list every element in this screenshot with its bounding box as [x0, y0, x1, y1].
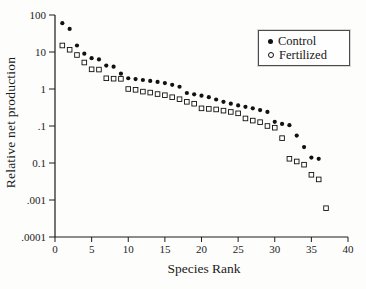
data-point-control: [236, 103, 240, 107]
data-point-control: [141, 78, 145, 82]
data-point-control: [265, 110, 269, 114]
x-tick-label: 15: [159, 243, 171, 255]
data-point-fertilized: [243, 116, 248, 121]
data-point-fertilized: [155, 92, 160, 97]
data-point-fertilized: [119, 77, 124, 82]
data-point-fertilized: [67, 47, 72, 52]
legend-item-control: Control: [268, 34, 349, 48]
data-point-control: [68, 27, 72, 31]
data-point-control: [90, 56, 94, 60]
data-point-control: [148, 79, 152, 83]
y-tick-label: 10: [35, 46, 47, 58]
data-point-fertilized: [258, 120, 263, 125]
data-point-fertilized: [316, 177, 321, 182]
data-point-control: [221, 100, 225, 104]
y-axis-ticks: 100101.10.1.001.0001: [21, 9, 55, 243]
legend-item-fertilized: Fertilized: [268, 48, 349, 62]
data-point-fertilized: [133, 88, 138, 93]
x-tick-label: 35: [306, 243, 318, 255]
y-tick-label: .001: [27, 194, 46, 206]
y-tick-label: 1: [41, 83, 47, 95]
data-point-fertilized: [97, 67, 102, 72]
data-point-control: [119, 72, 123, 76]
data-point-fertilized: [302, 162, 307, 167]
data-point-fertilized: [177, 97, 182, 102]
data-point-control: [192, 92, 196, 96]
y-tick-label: 0.1: [32, 157, 46, 169]
data-point-fertilized: [324, 206, 329, 211]
data-point-control: [302, 145, 306, 149]
y-tick-label: .0001: [21, 231, 46, 243]
data-point-fertilized: [141, 89, 146, 94]
data-point-control: [317, 157, 321, 161]
x-tick-label: 30: [269, 243, 281, 255]
x-tick-label: 40: [343, 243, 355, 255]
data-point-fertilized: [280, 136, 285, 141]
data-point-control: [104, 63, 108, 67]
open-square-icon: [268, 52, 274, 58]
data-point-fertilized: [192, 101, 197, 106]
data-point-control: [214, 97, 218, 101]
data-point-fertilized: [185, 100, 190, 105]
legend-label-control: Control: [278, 34, 316, 49]
data-point-control: [75, 43, 79, 47]
x-tick-label: 20: [196, 243, 208, 255]
data-point-control: [112, 65, 116, 69]
filled-circle-icon: [268, 39, 273, 44]
x-axis-ticks: 0510152025303540: [52, 237, 354, 255]
x-tick-label: 10: [123, 243, 135, 255]
data-point-fertilized: [309, 172, 314, 177]
data-point-control: [126, 76, 130, 80]
data-point-fertilized: [126, 87, 131, 92]
data-point-fertilized: [148, 90, 153, 95]
data-point-control: [163, 81, 167, 85]
data-point-control: [295, 134, 299, 138]
data-point-control: [229, 102, 233, 106]
data-point-control: [177, 85, 181, 89]
data-point-fertilized: [89, 67, 94, 72]
data-point-control: [258, 108, 262, 112]
data-point-control: [155, 80, 159, 84]
data-point-fertilized: [287, 156, 292, 161]
data-point-control: [287, 123, 291, 127]
data-point-fertilized: [294, 159, 299, 164]
data-point-fertilized: [207, 107, 212, 112]
data-point-control: [60, 21, 64, 25]
x-tick-label: 5: [89, 243, 95, 255]
data-point-fertilized: [229, 110, 234, 115]
data-point-fertilized: [250, 118, 255, 123]
y-tick-label: 100: [30, 9, 47, 21]
data-point-control: [251, 106, 255, 110]
x-tick-label: 0: [52, 243, 58, 255]
data-point-control: [170, 83, 174, 87]
rank-abundance-figure: 100101.10.1.001.00010510152025303540 Rel…: [0, 0, 366, 289]
data-point-control: [97, 57, 101, 61]
data-point-fertilized: [111, 76, 116, 81]
x-axis-title: Species Rank: [104, 261, 304, 277]
data-point-fertilized: [272, 125, 277, 130]
data-point-fertilized: [214, 107, 219, 112]
data-point-control: [185, 91, 189, 95]
data-point-control: [243, 105, 247, 109]
data-point-fertilized: [82, 60, 87, 65]
data-point-control: [207, 95, 211, 99]
data-point-control: [309, 155, 313, 159]
data-point-control: [199, 94, 203, 98]
data-point-fertilized: [104, 76, 109, 81]
data-point-fertilized: [60, 43, 65, 48]
data-point-fertilized: [163, 93, 168, 98]
x-tick-label: 25: [233, 243, 245, 255]
legend-box: Control Fertilized: [258, 30, 350, 66]
y-axis-title: Relative net production: [3, 43, 20, 203]
data-point-fertilized: [199, 106, 204, 111]
data-point-control: [273, 120, 277, 124]
data-point-fertilized: [75, 53, 80, 58]
data-point-fertilized: [221, 108, 226, 113]
data-point-control: [82, 52, 86, 56]
data-point-control: [280, 122, 284, 126]
data-point-fertilized: [265, 124, 270, 129]
legend-label-fertilized: Fertilized: [279, 48, 327, 63]
data-point-control: [133, 77, 137, 81]
y-tick-label: .1: [38, 120, 46, 132]
data-point-fertilized: [236, 111, 241, 116]
